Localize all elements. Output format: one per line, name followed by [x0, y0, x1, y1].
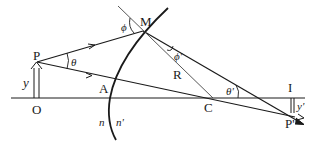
label-phi: ϕ [121, 21, 127, 33]
label-R: R [173, 67, 182, 82]
object-arrow [31, 62, 42, 98]
theta-angle-arc [67, 53, 69, 69]
label-I: I [288, 80, 292, 95]
diagram-svg: P M A O C R I P' y y' θ ϕ ϕ' θ' n n' [0, 0, 319, 152]
label-M: M [140, 14, 152, 29]
label-theta: θ [71, 56, 77, 68]
label-C: C [204, 100, 213, 115]
label-n: n [99, 116, 105, 128]
label-A: A [99, 81, 109, 96]
label-P: P [33, 48, 40, 63]
ray-M-P-prime [143, 31, 303, 124]
label-P-prime: P' [285, 116, 295, 131]
label-y-prime: y' [296, 100, 305, 112]
label-phi-prime: ϕ' [174, 50, 183, 62]
image-arrow [291, 98, 294, 113]
optics-diagram: P M A O C R I P' y y' θ ϕ ϕ' θ' n n' [0, 0, 319, 152]
label-O: O [32, 102, 41, 117]
ray-P-A-C [37, 62, 295, 117]
label-n-prime: n' [116, 116, 125, 128]
normal-line [118, 6, 213, 98]
label-theta-prime: θ' [226, 85, 234, 97]
label-y: y [21, 75, 29, 90]
